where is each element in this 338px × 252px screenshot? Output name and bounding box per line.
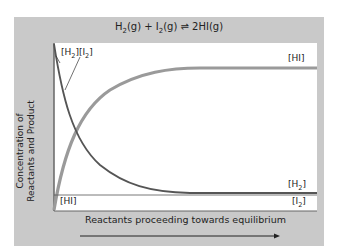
hi-label-top: [HI] [288, 53, 304, 63]
hi-label-bottom: [HI] [60, 196, 76, 206]
reactants-label: [H2][I2] [61, 47, 93, 60]
chart-curves [0, 0, 338, 252]
hi-curve [54, 68, 317, 210]
label-pointer [65, 57, 80, 90]
h2-label: [H2] [288, 179, 306, 192]
arrow-head-icon [274, 234, 280, 239]
reactant-curve [54, 44, 317, 193]
i2-label: [I2] [292, 196, 306, 209]
